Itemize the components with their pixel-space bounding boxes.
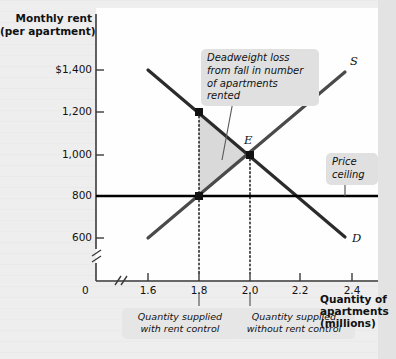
y-tick-1000: 1,000 xyxy=(28,148,92,160)
x-tick-1.8: 1.8 xyxy=(179,284,219,296)
x-axis-title-line1: Quantity of xyxy=(320,293,387,306)
x-tick-1.6: 1.6 xyxy=(128,284,168,296)
price-ceiling-callout: Price ceiling xyxy=(326,153,378,185)
supply-curve-label: S xyxy=(350,55,358,68)
y-axis-break-icon xyxy=(92,250,101,262)
figure-root: Monthly rent (per apartment) $1,400 1,20… xyxy=(0,0,396,359)
y-axis-title-line2: (per apartment) xyxy=(0,25,92,37)
y-tick-800: 800 xyxy=(28,189,92,201)
price-ceiling-callout-line1: Price xyxy=(332,156,372,169)
x-axis-ticks xyxy=(148,273,352,281)
deadweight-loss-region xyxy=(199,112,250,196)
qty-with-line1: Quantity supplied xyxy=(127,311,233,323)
deadweight-loss-callout: Deadweight loss from fall in number of a… xyxy=(201,49,319,106)
y-tick-1200: 1,200 xyxy=(28,105,92,117)
x-tick-2.0: 2.0 xyxy=(230,284,270,296)
y-tick-1400: $1,400 xyxy=(28,63,92,75)
deadweight-callout-line1: Deadweight loss xyxy=(207,52,313,65)
x-tick-2.2: 2.2 xyxy=(280,284,320,296)
axis-origin-label: 0 xyxy=(82,284,89,296)
qty-with-rent-control-caption: Quantity supplied with rent control xyxy=(122,308,238,339)
deadweight-callout-line3: of apartments rented xyxy=(207,78,313,104)
y-tick-600: 600 xyxy=(28,231,92,243)
point-supply-at-ceiling xyxy=(195,192,203,200)
qty-with-line2: with rent control xyxy=(127,323,233,335)
x-axis-title-line3: (millions) xyxy=(320,317,376,330)
point-equilibrium-E xyxy=(246,151,254,159)
y-axis-ticks xyxy=(96,70,104,238)
x-axis-title-line2: apartments xyxy=(320,305,389,318)
demand-curve-label: D xyxy=(352,232,361,245)
y-axis-title-line1: Monthly rent xyxy=(0,12,92,24)
point-demand-at-1.8 xyxy=(195,108,203,116)
equilibrium-point-label: E xyxy=(244,134,252,147)
price-ceiling-callout-line2: ceiling xyxy=(332,169,372,182)
deadweight-callout-line2: from fall in number xyxy=(207,65,313,78)
